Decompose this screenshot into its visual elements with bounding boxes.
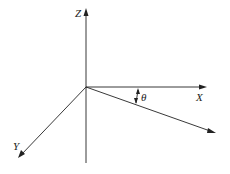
theta-label: θ [141,91,147,103]
z-arrow-icon [84,8,89,16]
vector-arrow-icon [207,128,216,133]
coordinate-diagram: Z X Y θ [0,0,230,174]
y-label: Y [13,140,21,152]
rotated-vector [86,87,213,132]
angle-arrow-down-icon [134,98,138,104]
z-label: Z [75,7,82,19]
x-label: X [195,91,204,103]
angle-arrow-up-icon [136,88,140,94]
y-axis [21,87,86,155]
x-arrow-icon [199,85,207,90]
diagram-canvas: Z X Y θ [0,0,230,174]
